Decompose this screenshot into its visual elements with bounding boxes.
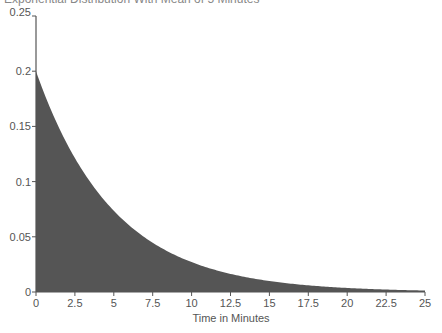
y-tick-label: 0.15 (10, 120, 31, 132)
y-axis-ticks: 00.050.10.150.20.25 (10, 6, 36, 298)
x-tick-label: 0 (33, 297, 39, 309)
exponential-distribution-chart: Exponential Distribution With Mean of 5 … (0, 0, 442, 333)
x-tick-label: 25 (419, 297, 431, 309)
x-axis-title: Time in Minutes (192, 312, 270, 324)
x-tick-label: 10 (185, 297, 197, 309)
y-tick-label: 0.1 (16, 176, 31, 188)
x-tick-label: 17.5 (298, 297, 319, 309)
x-tick-label: 15 (263, 297, 275, 309)
x-axis-ticks: 02.557.51012.51517.52022.525 (33, 292, 431, 309)
y-tick-label: 0.25 (10, 6, 31, 18)
x-tick-label: 12.5 (220, 297, 241, 309)
y-tick-label: 0 (25, 286, 31, 298)
area-fill (36, 71, 425, 292)
density-area (36, 71, 425, 292)
y-tick-label: 0.2 (16, 65, 31, 77)
x-tick-label: 7.5 (145, 297, 160, 309)
y-tick-label: 0.05 (10, 231, 31, 243)
x-tick-label: 2.5 (67, 297, 82, 309)
x-tick-label: 22.5 (375, 297, 396, 309)
x-tick-label: 5 (111, 297, 117, 309)
chart-title: Exponential Distribution With Mean of 5 … (4, 0, 259, 6)
x-tick-label: 20 (341, 297, 353, 309)
